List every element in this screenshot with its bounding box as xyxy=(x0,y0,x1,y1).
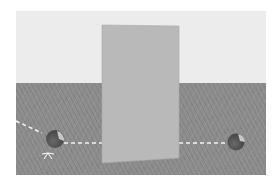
ball-left xyxy=(46,130,64,148)
impact-spark-icon xyxy=(42,153,54,159)
render-scene xyxy=(16,11,266,175)
occluder-panel xyxy=(102,25,179,163)
scene-objects xyxy=(16,11,266,175)
ball-right xyxy=(228,134,246,151)
